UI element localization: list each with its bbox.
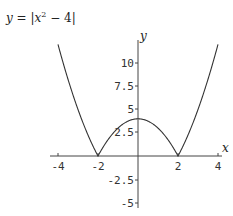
x-tick-label: -4 <box>51 160 65 173</box>
x-axis-label: x <box>222 141 229 155</box>
y-axis-label: y <box>139 29 147 43</box>
y-tick-label: -5 <box>121 197 134 210</box>
y-tick-label: 10 <box>121 57 134 70</box>
y-tick-label: 7.5 <box>114 80 134 93</box>
y-tick-label: -2.5 <box>108 174 135 187</box>
y-ticks: 10 7.5 5 2.5 -2.5 -5 <box>108 57 139 210</box>
x-tick-label: 4 <box>215 160 222 173</box>
y-tick-label: 5 <box>127 103 134 116</box>
y-tick-label: 2.5 <box>114 126 134 139</box>
x-tick-label: 2 <box>175 160 182 173</box>
x-tick-label: -2 <box>91 160 104 173</box>
plot-area: -4 -2 2 4 10 7.5 5 2.5 -2.5 -5 y x <box>0 0 233 216</box>
